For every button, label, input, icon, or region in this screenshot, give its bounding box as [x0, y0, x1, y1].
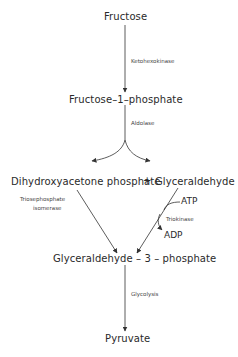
- arrow-dhap-to-g3p: [77, 190, 117, 253]
- enzyme-aldolase: Aldolase: [131, 120, 154, 127]
- enzyme-triosephosphate-isomerase-line2: isomerase: [33, 205, 61, 212]
- node-glyceraldehyde: Glyceraldehyde: [155, 176, 235, 188]
- enzyme-ketohexokinase: Ketohexokinase: [131, 58, 174, 65]
- enzyme-triokinase: Triokinase: [166, 216, 194, 223]
- node-fructose-1-phosphate: Fructose–1–phosphate: [69, 94, 183, 106]
- arrow-aldolase-to-glyceraldehyde: [125, 140, 150, 161]
- enzyme-triosephosphate-isomerase-line1: Triosephosphate: [20, 196, 65, 203]
- cofactor-adp: ADP: [164, 230, 183, 241]
- cofactor-atp: ATP: [181, 196, 197, 207]
- node-glyceraldehyde-3-phosphate: Glyceraldehyde – 3 – phosphate: [53, 253, 216, 265]
- enzyme-glycolysis: Glycolysis: [131, 291, 158, 298]
- arrow-atp-in: [164, 202, 180, 210]
- arrow-aldolase-to-dhap: [92, 140, 125, 161]
- node-pyruvate: Pyruvate: [105, 333, 150, 345]
- node-fructose: Fructose: [104, 11, 147, 23]
- plus-sign: +: [143, 175, 151, 187]
- node-dihydroxyacetone-phosphate: Dihydroxyacetone phosphate: [11, 176, 161, 188]
